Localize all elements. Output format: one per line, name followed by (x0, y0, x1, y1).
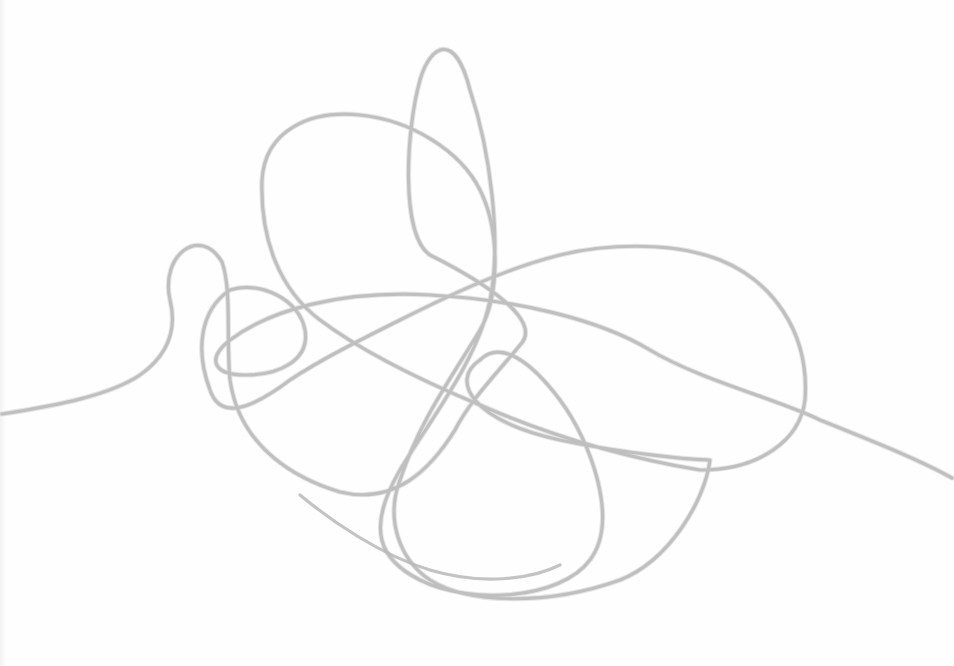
scribble-drawing (0, 0, 954, 666)
scribble-line-shadow (2, 49, 952, 598)
scribble-line-segment (300, 495, 560, 579)
paper-canvas (0, 0, 954, 666)
scribble-line (2, 49, 952, 598)
